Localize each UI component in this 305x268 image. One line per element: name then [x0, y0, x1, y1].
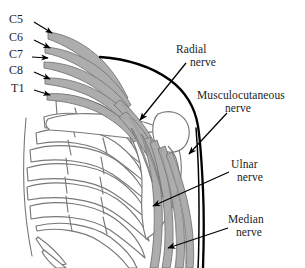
label-musculocutaneous-nerve-line1: Musculocutaneous — [197, 89, 285, 101]
label-nerve-root-c8: C8 — [9, 64, 23, 77]
leader-t1 — [34, 90, 50, 95]
leader-c5 — [34, 22, 52, 33]
label-radial-nerve: Radial nerve — [176, 43, 216, 69]
label-radial-nerve-line2: nerve — [176, 56, 216, 69]
label-ulnar-nerve: Ulnar nerve — [231, 158, 263, 184]
leader-c6 — [34, 40, 50, 48]
label-median-nerve-line1: Median — [228, 213, 264, 225]
leader-radial — [140, 63, 186, 120]
label-musculocutaneous-nerve: Musculocutaneous nerve — [197, 89, 285, 115]
label-ulnar-nerve-line2: nerve — [231, 171, 263, 184]
brachial-plexus-figure: C5 C6 C7 C8 T1 Radial nerve Musculocutan… — [0, 0, 305, 268]
label-musculocutaneous-nerve-line2: nerve — [197, 102, 285, 115]
leader-c7 — [32, 57, 48, 58]
label-median-nerve-line2: nerve — [228, 226, 264, 239]
leader-musculocutaneous — [189, 113, 227, 154]
label-nerve-root-c5: C5 — [9, 13, 23, 26]
label-ulnar-nerve-line1: Ulnar — [231, 158, 258, 170]
leader-c8 — [34, 72, 50, 79]
label-nerve-root-c7: C7 — [9, 48, 23, 61]
label-nerve-root-t1: T1 — [11, 82, 25, 95]
label-nerve-root-c6: C6 — [9, 31, 23, 44]
label-radial-nerve-line1: Radial — [176, 43, 207, 55]
label-median-nerve: Median nerve — [228, 213, 264, 239]
